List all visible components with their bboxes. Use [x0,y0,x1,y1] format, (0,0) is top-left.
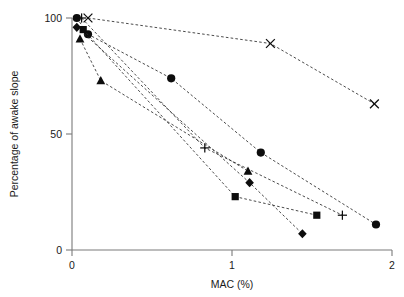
series-line-diamond [77,27,303,233]
series-layer [73,13,381,238]
marker-circle [257,148,265,156]
square-marker [313,212,320,219]
marker-circle [372,220,380,228]
x-tick-group: 0 1 2 [69,250,395,271]
series-line-square [83,30,317,216]
y-axis-title: Percentage of awake slope [8,71,20,198]
y-tick-label-50: 50 [50,128,62,140]
y-tick-label-0: 0 [56,244,62,256]
marker-cross [370,99,379,108]
marker-triangle [76,34,85,42]
series-line-cross [88,18,374,104]
marker-diamond [298,229,307,238]
circle-marker [372,220,380,228]
circle-marker [167,74,175,82]
marker-plus [338,211,347,220]
x-tick-label-2: 2 [389,259,395,271]
marker-cross [266,39,275,48]
y-tick-group: 100 50 0 [44,12,72,256]
series-2-plus [77,13,347,219]
series-1-circle [73,14,380,229]
awake-slope-vs-mac-chart: 100 50 0 0 1 2 MAC (%) Percentage of awa… [0,0,404,297]
series-line-plus [82,18,343,215]
triangle-marker [76,34,85,42]
y-tick-label-100: 100 [44,12,62,24]
marker-square [80,26,87,33]
series-4-diamond [73,23,307,239]
x-tick-label-1: 1 [229,259,235,271]
x-axis-title: MAC (%) [211,278,254,290]
circle-marker [257,148,265,156]
square-marker [80,26,87,33]
series-line-triangle [80,39,248,171]
series-6-triangle [76,34,253,175]
marker-circle [167,74,175,82]
triangle-marker [96,76,105,84]
x-tick-label-0: 0 [69,259,75,271]
diamond-marker [298,229,307,238]
marker-triangle [96,76,105,84]
series-line-circle [77,18,376,224]
series-3-cross [84,14,379,109]
square-marker [232,193,239,200]
series-5-square [80,26,321,219]
marker-square [313,212,320,219]
marker-square [232,193,239,200]
